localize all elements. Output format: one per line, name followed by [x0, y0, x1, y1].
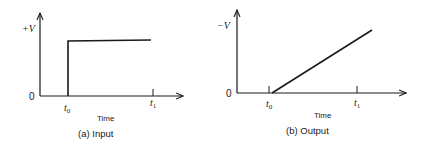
x-axis-label: Time [97, 114, 115, 123]
origin-label: 0 [29, 91, 35, 102]
integrator-response-diagram: +V 0 t0 t1 Time (a) Input −V 0 t0 t1 Tim… [0, 0, 428, 144]
panel-input: +V 0 t0 t1 Time (a) Input [22, 13, 183, 139]
step-signal [68, 40, 151, 96]
caption: (a) Input [78, 128, 114, 139]
t1-label: t1 [354, 97, 361, 110]
caption: (b) Output [286, 125, 329, 136]
t0-label: t0 [266, 98, 273, 111]
origin-label: 0 [226, 88, 232, 99]
ramp-signal [272, 30, 372, 93]
x-axis-label: Time [314, 111, 332, 120]
t0-label: t0 [64, 102, 71, 115]
t1-label: t1 [150, 97, 157, 110]
y-axis-label: +V [22, 23, 37, 34]
panel-output: −V 0 t0 t1 Time (b) Output [217, 10, 406, 136]
y-axis-label: −V [217, 20, 232, 31]
